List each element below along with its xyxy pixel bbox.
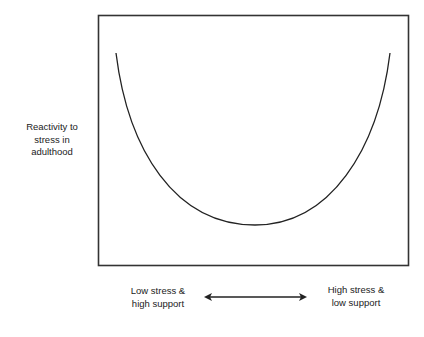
y-axis-label-line: adulthood — [2, 146, 102, 159]
plot-frame — [99, 16, 409, 266]
x-axis-high-label: High stress & low support — [316, 284, 396, 309]
y-axis-label-line: stress in — [2, 134, 102, 147]
y-axis-label-line: Reactivity to — [2, 121, 102, 134]
x-low-label-line: high support — [118, 298, 198, 311]
x-axis-low-label: Low stress & high support — [118, 285, 198, 310]
u-shaped-curve — [116, 53, 390, 225]
x-low-label-line: Low stress & — [118, 285, 198, 298]
y-axis-label: Reactivity to stress in adulthood — [2, 121, 102, 159]
x-high-label-line: High stress & — [316, 284, 396, 297]
x-high-label-line: low support — [316, 297, 396, 310]
